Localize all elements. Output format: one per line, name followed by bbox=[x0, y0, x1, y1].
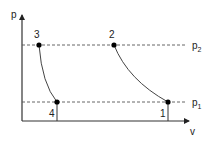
y-axis-label: p bbox=[11, 9, 17, 20]
point-2 bbox=[111, 42, 116, 47]
point-3 bbox=[36, 42, 41, 47]
isobar-p1-label: p1 bbox=[192, 97, 202, 110]
point-2-label: 2 bbox=[109, 29, 115, 40]
point-4-label: 4 bbox=[49, 108, 55, 119]
curve-2-1 bbox=[114, 45, 168, 102]
x-axis-label: v bbox=[190, 126, 195, 137]
point-3-label: 3 bbox=[34, 29, 40, 40]
point-1 bbox=[165, 99, 170, 104]
curve-3-4 bbox=[39, 45, 57, 102]
point-4 bbox=[54, 99, 59, 104]
isobar-p2-label: p2 bbox=[192, 40, 202, 53]
point-1-label: 1 bbox=[160, 108, 166, 119]
pv-diagram: p v p2 p1 3 2 4 1 bbox=[0, 0, 212, 143]
